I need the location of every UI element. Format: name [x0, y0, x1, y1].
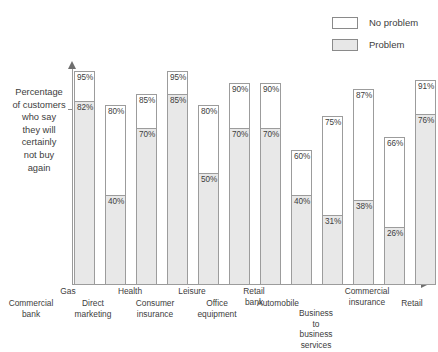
category-label-consumer-insurance: Consumer insurance [124, 298, 186, 319]
bar-segment-no-problem: 95% [167, 71, 188, 94]
bar-office-equipment: 90%70% [260, 83, 281, 286]
bar-segment-no-problem: 95% [74, 71, 95, 100]
bar-value-no-problem: 95% [170, 73, 186, 82]
bar-value-no-problem: 80% [108, 107, 124, 116]
bar-value-problem: 70% [232, 130, 248, 139]
bar-segment-problem: 26% [384, 227, 405, 286]
bar-gas: 80%40% [105, 105, 126, 285]
category-label-commercial-bank: Commercial bank [0, 298, 62, 319]
bar-business-to-business-services: 87%38% [353, 89, 374, 285]
bar-stack: 60%40% [291, 150, 312, 285]
legend-label-problem: Problem [369, 39, 404, 50]
bar-value-problem: 76% [418, 116, 434, 125]
bar-value-no-problem: 75% [325, 118, 341, 127]
bar-value-problem: 50% [201, 175, 217, 184]
category-label-leisure: Leisure [168, 286, 216, 297]
bar-segment-problem: 85% [167, 94, 188, 285]
bar-value-problem: 85% [170, 96, 186, 105]
category-label-business-to-business-services: Business to business services [292, 308, 340, 350]
bar-leisure: 90%70% [229, 83, 250, 286]
legend-label-no-problem: No problem [369, 17, 418, 28]
bar-segment-problem: 31% [322, 215, 343, 285]
bar-value-no-problem: 80% [201, 107, 217, 116]
bar-commercial-bank: 95%82% [74, 71, 95, 285]
plot-area: 95%82%80%40%85%70%95%85%80%50%90%70%90%7… [72, 60, 422, 285]
bar-commercial-insurance: 66%26% [384, 137, 405, 286]
bar-segment-no-problem: 66% [384, 137, 405, 227]
chart-legend: No problem Problem [332, 14, 436, 58]
legend-item-no-problem: No problem [332, 14, 436, 31]
bar-stack: 66%26% [384, 137, 405, 286]
stacked-bar-chart: No problem Problem Percentage of custome… [0, 0, 438, 352]
bar-segment-no-problem: 80% [198, 105, 219, 173]
legend-swatch-no-problem-icon [332, 17, 358, 29]
category-label-health: Health [106, 286, 154, 297]
bar-value-problem: 31% [325, 217, 341, 226]
bar-value-no-problem: 91% [418, 82, 434, 91]
category-label-commercial-insurance: Commercial insurance [336, 286, 398, 307]
bar-value-no-problem: 95% [77, 73, 93, 82]
bar-segment-no-problem: 75% [322, 116, 343, 215]
bar-stack: 90%70% [229, 83, 250, 286]
category-label-automobile: Automobile [246, 298, 310, 309]
bar-value-no-problem: 87% [356, 91, 372, 100]
bar-segment-no-problem: 91% [415, 80, 436, 114]
bar-stack: 91%76% [415, 80, 436, 285]
bar-stack: 95%85% [167, 71, 188, 285]
category-label-direct-marketing: Direct marketing [62, 298, 124, 319]
bar-segment-no-problem: 90% [260, 83, 281, 128]
bar-stack: 75%31% [322, 116, 343, 285]
bar-consumer-insurance: 80%50% [198, 105, 219, 285]
bar-segment-problem: 82% [74, 101, 95, 286]
bar-value-problem: 70% [263, 130, 279, 139]
bar-value-problem: 40% [294, 197, 310, 206]
category-label-retail: Retail [390, 298, 434, 309]
bar-direct-marketing: 85%70% [136, 94, 157, 285]
bar-segment-no-problem: 87% [353, 89, 374, 199]
bar-segment-problem: 40% [105, 195, 126, 285]
bar-value-problem: 82% [77, 103, 93, 112]
bar-segment-no-problem: 80% [105, 105, 126, 195]
bar-value-no-problem: 90% [263, 85, 279, 94]
bar-stack: 80%40% [105, 105, 126, 285]
bar-value-no-problem: 66% [387, 139, 403, 148]
bar-segment-no-problem: 85% [136, 94, 157, 128]
bar-segment-problem: 70% [260, 128, 281, 286]
bar-stack: 95%82% [74, 71, 95, 285]
bar-segment-no-problem: 60% [291, 150, 312, 195]
y-axis-label: Percentage of customers who say they wil… [8, 86, 70, 174]
bar-value-no-problem: 90% [232, 85, 248, 94]
bar-retail: 91%76% [415, 80, 436, 285]
bar-segment-problem: 50% [198, 173, 219, 286]
bar-retail-bank: 60%40% [291, 150, 312, 285]
bar-segment-problem: 38% [353, 200, 374, 286]
bar-value-problem: 38% [356, 202, 372, 211]
bar-value-problem: 40% [108, 197, 124, 206]
bar-stack: 85%70% [136, 94, 157, 285]
x-axis-category-labels: Commercial bankGasDirect marketingHealth… [0, 286, 438, 352]
bar-segment-problem: 70% [229, 128, 250, 286]
legend-item-problem: Problem [332, 36, 436, 53]
bar-health: 95%85% [167, 71, 188, 285]
bar-automobile: 75%31% [322, 116, 343, 285]
bar-segment-problem: 40% [291, 195, 312, 285]
bar-stack: 90%70% [260, 83, 281, 286]
bar-stack: 80%50% [198, 105, 219, 285]
legend-swatch-problem-icon [332, 39, 358, 51]
bar-value-problem: 70% [139, 130, 155, 139]
bar-value-no-problem: 60% [294, 152, 310, 161]
category-label-gas: Gas [44, 286, 92, 297]
bar-segment-no-problem: 90% [229, 83, 250, 128]
bar-value-no-problem: 85% [139, 96, 155, 105]
bar-value-problem: 26% [387, 229, 403, 238]
bar-segment-problem: 76% [415, 114, 436, 285]
bar-segment-problem: 70% [136, 128, 157, 286]
bar-stack: 87%38% [353, 89, 374, 285]
